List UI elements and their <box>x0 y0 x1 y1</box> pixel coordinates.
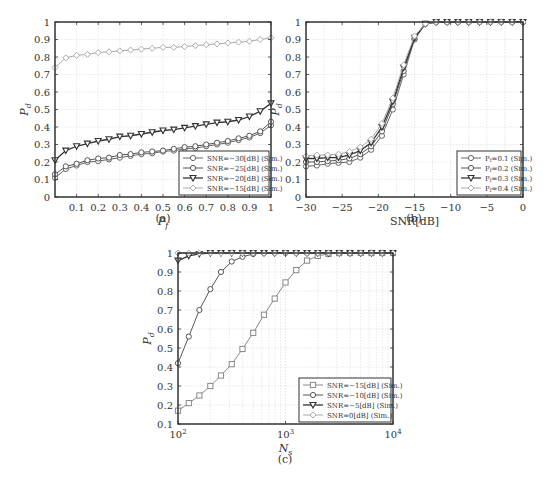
y-tick-label: 0.2 <box>34 157 50 168</box>
x-tick-label: −10 <box>440 202 461 213</box>
y-tick-label: 0.6 <box>157 324 173 335</box>
legend: SNR=−30[dB] (Sim.)SNR=−25[dB] (Sim.)SNR=… <box>179 151 283 195</box>
y-tick-label: 0.7 <box>157 305 173 316</box>
circle-marker <box>229 259 234 264</box>
y-tick-label: 0.9 <box>34 34 50 45</box>
x-tick-label: 0.2 <box>90 202 106 213</box>
diamond-marker <box>128 47 134 53</box>
x-tick-label: 102 <box>169 428 186 440</box>
circle-marker <box>258 129 263 134</box>
circle-marker <box>190 155 195 160</box>
diamond-marker <box>236 39 242 45</box>
x-tick-label: −25 <box>332 202 353 213</box>
y-tick-label: 0.2 <box>157 400 173 411</box>
caption-c: (c) <box>278 453 293 466</box>
circle-marker <box>204 142 209 147</box>
y-tick-label: 0.9 <box>285 34 301 45</box>
y-tick-label: 0.4 <box>34 122 50 133</box>
circle-marker <box>197 307 202 312</box>
y-tick-label: 0.3 <box>285 139 301 150</box>
triangle-down-marker <box>203 122 209 128</box>
legend: Pf=0.1 (Sim.)Pf=0.2 (Sim.)Pf=0.3 (Sim.)P… <box>457 151 532 195</box>
chart-panel-b: 00.10.20.30.40.50.60.70.80.91−30−25−20−1… <box>269 17 532 229</box>
x-tick-label: 104 <box>384 428 402 440</box>
diamond-marker <box>203 42 209 48</box>
square-marker <box>272 296 277 301</box>
x-tick-label: 0.8 <box>220 202 236 213</box>
legend-label: Pf=0.3 (Sim.) <box>485 175 532 184</box>
circle-marker <box>186 334 191 339</box>
square-marker <box>304 258 309 263</box>
diamond-marker <box>160 44 166 50</box>
circle-marker <box>106 155 111 160</box>
legend-label: Pf=0.4 (Sim.) <box>485 185 532 194</box>
square-marker <box>294 268 299 273</box>
y-tick-label: 0.1 <box>34 174 50 185</box>
chart-panel-c: 0.10.20.30.40.50.60.70.80.91102103104NsP… <box>141 248 403 458</box>
diamond-marker <box>182 44 188 50</box>
caption-b: (b) <box>406 212 422 225</box>
x-tick-label: 103 <box>277 428 294 440</box>
circle-marker <box>247 133 252 138</box>
triangle-down-marker <box>225 119 231 125</box>
triangle-down-marker <box>138 132 144 138</box>
diamond-marker <box>225 40 231 46</box>
y-tick-label: 0.9 <box>157 267 173 278</box>
triangle-down-marker <box>128 133 134 139</box>
y-axis-label: Pd <box>141 332 156 346</box>
circle-marker <box>218 269 223 274</box>
diamond-marker <box>95 50 101 56</box>
diamond-marker <box>257 37 263 43</box>
y-tick-label: 0.7 <box>285 69 301 80</box>
y-tick-label: 0.6 <box>34 87 50 98</box>
y-tick-label: 0.5 <box>34 104 50 115</box>
y-tick-label: 1 <box>295 17 301 28</box>
y-tick-label: 0 <box>44 192 50 203</box>
legend-label: SNR=−5[dB] (Sim.) <box>327 402 398 410</box>
y-tick-label: 0.8 <box>285 52 301 63</box>
circle-marker <box>193 144 198 149</box>
legend-label: SNR=−25[dB] (Sim.) <box>207 165 283 173</box>
circle-marker <box>74 161 79 166</box>
circle-marker <box>182 145 187 150</box>
y-tick-label: 1 <box>44 17 50 28</box>
triangle-down-marker <box>160 128 166 134</box>
y-axis-label: Pd <box>18 103 33 117</box>
triangle-down-marker <box>257 109 263 115</box>
diamond-marker <box>117 48 123 54</box>
triangle-down-marker <box>171 127 177 133</box>
circle-marker <box>236 136 241 141</box>
circle-marker <box>139 150 144 155</box>
triangle-down-marker <box>95 139 101 145</box>
legend-label: SNR=−15[dB] (Sim.) <box>207 185 283 193</box>
triangle-down-marker <box>106 137 112 143</box>
y-tick-label: 0.5 <box>157 343 173 354</box>
x-tick-label: 0.7 <box>198 202 214 213</box>
square-marker <box>218 373 223 378</box>
triangle-down-marker <box>84 141 90 147</box>
circle-marker <box>208 287 213 292</box>
triangle-down-marker <box>192 124 198 130</box>
legend-label: SNR=−30[dB] (Sim.) <box>207 155 283 163</box>
x-tick-label: 0.6 <box>177 202 193 213</box>
y-tick-label: 0.8 <box>34 52 50 63</box>
x-tick-label: 0.3 <box>112 202 128 213</box>
square-marker <box>310 382 315 387</box>
y-tick-label: 0 <box>295 192 301 203</box>
triangle-down-marker <box>74 144 80 150</box>
y-tick-label: 0.3 <box>34 139 50 150</box>
diamond-marker <box>84 51 90 57</box>
y-tick-label: 0.8 <box>157 286 173 297</box>
circle-marker <box>171 146 176 151</box>
diamond-marker <box>106 49 112 55</box>
circle-marker <box>96 156 101 161</box>
square-marker <box>229 362 234 367</box>
figure: 00.10.20.30.40.50.60.70.80.910.10.20.30.… <box>0 0 547 483</box>
x-tick-label: 0 <box>520 202 526 213</box>
y-tick-label: 0.6 <box>285 87 301 98</box>
y-tick-label: 0.1 <box>285 174 301 185</box>
square-marker <box>208 383 213 388</box>
triangle-down-marker <box>117 134 123 140</box>
y-tick-label: 0.7 <box>34 69 50 80</box>
caption-a: (a) <box>155 212 170 225</box>
